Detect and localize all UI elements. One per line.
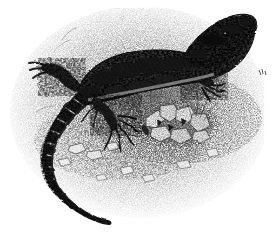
lizard-engraving xyxy=(0,0,272,236)
illustration-canvas: Lizard, vintage engraved illustration xyxy=(0,0,272,236)
engraving-grain xyxy=(0,0,272,236)
